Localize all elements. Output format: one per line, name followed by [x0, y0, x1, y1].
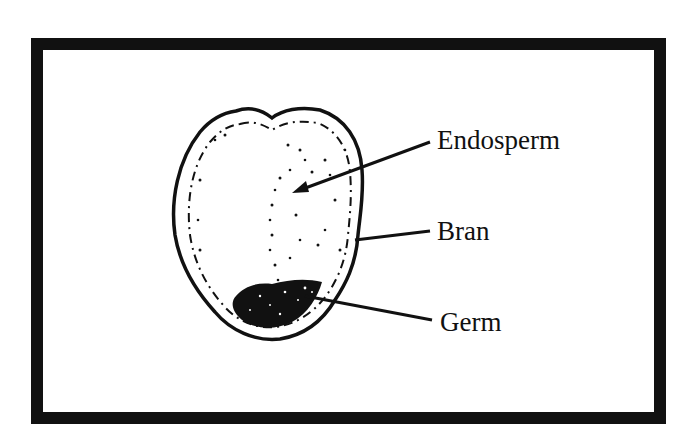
germ-region [233, 280, 322, 328]
label-germ: Germ [440, 309, 501, 336]
endosperm-leader-line [300, 142, 430, 190]
endosperm-speckles [197, 134, 347, 282]
endosperm-arrowhead-icon [292, 181, 309, 193]
label-endosperm: Endosperm [437, 127, 560, 154]
label-bran: Bran [437, 218, 489, 245]
grain-kernel-illustration [0, 0, 700, 446]
bran-leader-line [355, 231, 430, 240]
